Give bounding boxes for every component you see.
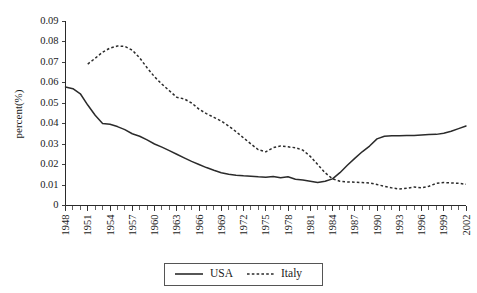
y-tick-label: 0.03 [40, 138, 58, 149]
series-line-usa [66, 87, 467, 183]
data-series-group [66, 46, 467, 189]
y-tick-label: 0.06 [40, 76, 58, 87]
legend-label-usa: USA [210, 267, 234, 279]
x-tick-label: 1975 [260, 215, 271, 236]
chart-legend: USA Italy [164, 263, 322, 285]
y-axis-title: percent(%) [12, 89, 25, 138]
x-tick-label: 1996 [416, 215, 427, 236]
y-tick-label: 0.05 [40, 97, 58, 108]
x-tick-label: 1984 [327, 214, 338, 236]
x-tick-label: 1957 [127, 215, 138, 236]
x-tick-label: 1972 [238, 215, 249, 236]
y-tick-label: 0.07 [40, 56, 58, 67]
x-tick-label: 1954 [105, 214, 116, 236]
x-tick-label: 1993 [394, 215, 405, 236]
x-tick-label: 1951 [82, 215, 93, 236]
x-tick-label: 1999 [438, 215, 449, 236]
x-tick-label: 1960 [149, 215, 160, 236]
y-tick-label: 0.08 [40, 35, 58, 46]
y-tick-label: 0 [53, 199, 58, 210]
x-tick-label: 1978 [283, 215, 294, 236]
chart-container: percent(%) 00.010.020.030.040.050.060.07… [0, 0, 477, 293]
y-tick-label: 0.04 [40, 117, 59, 128]
y-tick-label: 0.01 [40, 179, 58, 190]
legend-label-italy: Italy [281, 267, 302, 280]
x-tick-label: 1990 [372, 215, 383, 236]
x-tick-label: 1987 [349, 215, 360, 236]
line-chart: percent(%) 00.010.020.030.040.050.060.07… [0, 0, 477, 293]
x-tick-label: 1966 [194, 215, 205, 236]
y-tick-label: 0.02 [40, 158, 58, 169]
series-line-italy [88, 46, 466, 189]
x-tick-label: 2002 [461, 215, 472, 236]
y-axis-label: percent(%) [12, 89, 25, 138]
x-tick-label: 1963 [171, 215, 182, 236]
y-tick-label: 0.09 [40, 15, 58, 26]
x-axis-ticks: 1948195119541957196019631966196919721975… [60, 206, 472, 236]
x-tick-label: 1969 [216, 215, 227, 236]
x-tick-label: 1981 [305, 215, 316, 236]
x-tick-label: 1948 [60, 215, 71, 236]
y-axis-ticks: 00.010.020.030.040.050.060.070.080.09 [40, 15, 65, 211]
